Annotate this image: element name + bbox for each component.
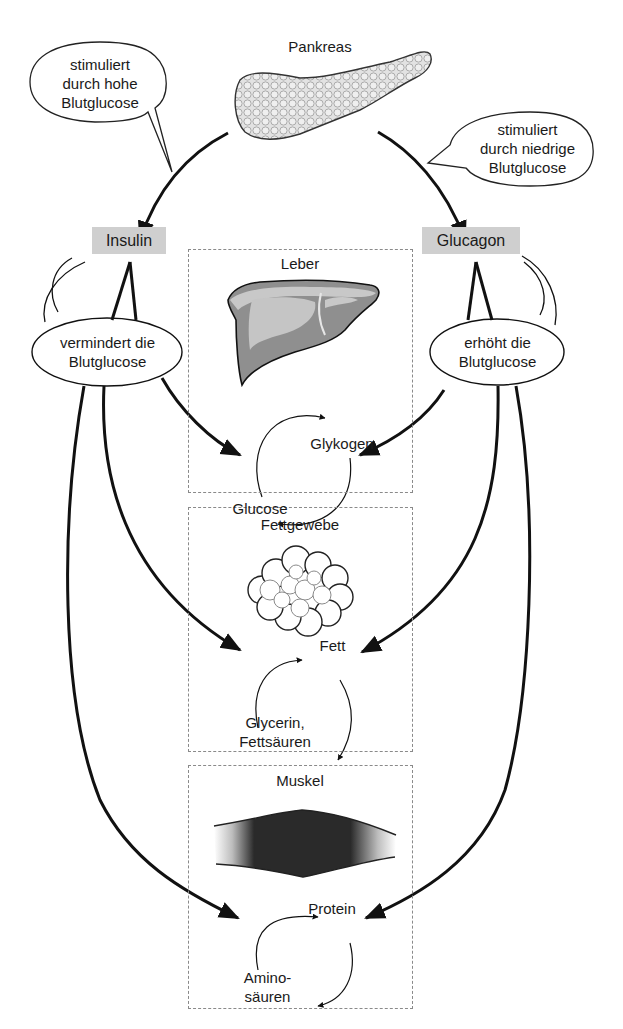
arrow-pancreas-to-insulin bbox=[140, 133, 228, 240]
bubble-increases-glucose-text: erhöht die Blutglucose bbox=[430, 333, 565, 371]
muscle-label: Muskel bbox=[255, 772, 345, 790]
insulin-label: Insulin bbox=[92, 227, 166, 254]
amino-label: Amino- bbox=[230, 969, 305, 987]
pancreas-illustration bbox=[235, 52, 431, 139]
liver-label: Leber bbox=[250, 255, 350, 273]
fat-tissue-label: Fettgewebe bbox=[240, 516, 360, 534]
glycogen-label: Glykogen bbox=[292, 435, 392, 453]
bubble-low-glucose-text: stimuliert durch niedrige Blutglucose bbox=[465, 120, 590, 177]
bubble-decreases-glucose-text: vermindert die Blutglucose bbox=[35, 333, 180, 371]
glycerin-label: Glycerin, bbox=[230, 714, 320, 732]
liver-box bbox=[188, 249, 413, 493]
glucagon-label: Glucagon bbox=[422, 227, 520, 254]
pancreas-label: Pankreas bbox=[270, 38, 370, 56]
fatty-acids-label: Fettsäuren bbox=[230, 733, 320, 751]
bubble-high-glucose-text: stimuliert durch hohe Blutglucose bbox=[40, 55, 160, 112]
protein-label: Protein bbox=[292, 900, 372, 918]
acids-label: säuren bbox=[230, 988, 305, 1006]
fat-label: Fett bbox=[310, 637, 355, 655]
